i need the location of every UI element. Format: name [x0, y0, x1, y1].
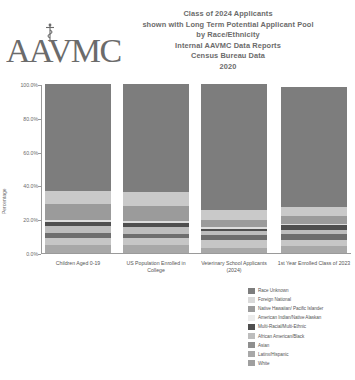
chart-legend: Race UnknownForeign NationalNative Hawai… — [248, 286, 352, 368]
y-tick-mark — [38, 119, 41, 120]
bar-segment — [45, 191, 111, 205]
bar-segment — [123, 227, 189, 234]
bar-segment — [123, 192, 189, 206]
legend-item[interactable]: African American/Black — [248, 331, 352, 340]
title-line-3: by Race/Ethnicity — [108, 30, 348, 41]
bar-4[interactable] — [281, 84, 347, 253]
title-line-2: shown with Long Term Potential Applicant… — [108, 20, 348, 31]
legend-swatch-icon — [248, 315, 255, 321]
legend-item-label: Multi-Racial/Multi-Ethnic — [258, 324, 306, 329]
bar-3[interactable] — [201, 84, 267, 253]
bar-segment — [123, 245, 189, 253]
bar-1[interactable] — [45, 84, 111, 253]
legend-item[interactable]: Latinx/Hispanic — [248, 350, 352, 359]
bar-segment — [45, 84, 111, 190]
legend-item-label: White — [258, 361, 270, 366]
bar-segment — [45, 204, 111, 220]
y-tick-label: 0.0% — [26, 251, 38, 257]
title-line-1: Class of 2024 Applicants — [108, 9, 348, 20]
legend-swatch-icon — [248, 324, 255, 330]
legend-item[interactable]: American Indian/Native Alaskan — [248, 313, 352, 322]
title-line-4: Internal AAVMC Data Reports — [108, 41, 348, 52]
bar-segment — [281, 246, 347, 253]
y-tick-mark — [38, 153, 41, 154]
legend-swatch-icon — [248, 297, 255, 303]
y-axis-ticks: 0.0%20.0%40.0%60.0%80.0%100.0% — [14, 84, 40, 254]
legend-item-label: American Indian/Native Alaskan — [258, 315, 321, 320]
x-axis-category-label: 1st Year Enrolled Class of 2023 — [275, 260, 353, 267]
legend-swatch-icon — [248, 306, 255, 312]
y-tick-mark — [38, 254, 41, 255]
bar-segment — [281, 87, 347, 206]
legend-item[interactable]: Multi-Racial/Multi-Ethnic — [248, 322, 352, 331]
legend-item[interactable]: White — [248, 359, 352, 368]
legend-swatch-icon — [248, 351, 255, 357]
y-tick-label: 60.0% — [23, 150, 38, 156]
bar-segment — [45, 226, 111, 233]
bar-segment — [281, 207, 347, 216]
y-tick-mark — [38, 85, 41, 86]
title-line-5: Census Bureau Data — [108, 51, 348, 62]
chart-plot-area: Percentage 0.0%20.0%40.0%60.0%80.0%100.0… — [0, 84, 355, 280]
bar-segment — [201, 240, 267, 248]
bar-segment — [123, 206, 189, 221]
bar-segment — [123, 84, 189, 192]
svg-text:AAVMC: AAVMC — [6, 32, 121, 69]
x-axis-category-label: Veterinary School Applicants (2024) — [195, 260, 273, 275]
chart-header: AAVMC Class of 2024 Applicants shown wit… — [0, 0, 355, 84]
bar-segment — [201, 220, 267, 227]
y-tick-label: 100.0% — [20, 82, 38, 88]
bar-segment — [281, 240, 347, 247]
stacked-bars — [41, 84, 351, 254]
legend-item-label: Latinx/Hispanic — [258, 352, 288, 357]
legend-item-label: Native Hawaiian/ Pacific Islander — [258, 306, 323, 311]
legend-item[interactable]: Native Hawaiian/ Pacific Islander — [248, 304, 352, 313]
bar-segment — [45, 245, 111, 253]
bar-segment — [201, 248, 267, 253]
legend-item-label: African American/Black — [258, 334, 304, 339]
y-tick-mark — [38, 220, 41, 221]
x-axis-labels: Children Aged 0-19US Population Enrolled… — [41, 256, 351, 280]
x-axis-category-label: US Population Enrolled in College — [117, 260, 195, 275]
chart-title: Class of 2024 Applicants shown with Long… — [108, 9, 348, 73]
legend-item-label: Race Unknown — [258, 288, 289, 293]
title-line-6: 2020 — [108, 62, 348, 73]
legend-swatch-icon — [248, 288, 255, 294]
x-axis-category-label: Children Aged 0-19 — [39, 260, 117, 267]
bar-segment — [201, 84, 267, 210]
legend-item-label: Foreign National — [258, 297, 291, 302]
bar-segment — [45, 238, 111, 246]
legend-item[interactable]: Race Unknown — [248, 286, 352, 295]
bar-segment — [281, 216, 347, 224]
y-tick-label: 20.0% — [23, 217, 38, 223]
y-tick-label: 40.0% — [23, 183, 38, 189]
bar-segment — [201, 210, 267, 220]
y-axis-label: Percentage — [1, 188, 7, 214]
legend-item[interactable]: Foreign National — [248, 295, 352, 304]
legend-item-label: Asian — [258, 343, 269, 348]
bar-2[interactable] — [123, 84, 189, 253]
legend-swatch-icon — [248, 360, 255, 366]
legend-item[interactable]: Asian — [248, 341, 352, 350]
y-tick-mark — [38, 186, 41, 187]
legend-swatch-icon — [248, 342, 255, 348]
legend-swatch-icon — [248, 333, 255, 339]
y-tick-label: 80.0% — [23, 116, 38, 122]
